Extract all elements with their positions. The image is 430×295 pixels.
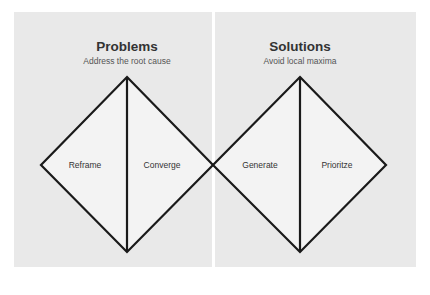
phase-prioritize: Prioritze (297, 160, 377, 170)
phase-generate: Generate (220, 160, 300, 170)
phase-converge: Converge (122, 160, 202, 170)
phase-reframe: Reframe (45, 160, 125, 170)
double-diamond-diagram (0, 0, 430, 295)
